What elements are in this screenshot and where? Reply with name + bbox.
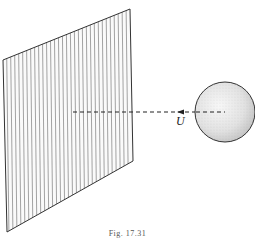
flat-plate	[3, 0, 133, 239]
sphere	[195, 82, 255, 142]
velocity-label: U	[176, 114, 185, 129]
diagram-canvas	[0, 0, 255, 239]
figure-caption: Fig. 17.31	[0, 229, 255, 238]
